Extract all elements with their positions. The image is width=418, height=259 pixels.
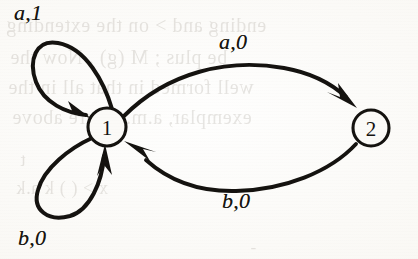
state-machine-diagram: 1 2: [0, 0, 418, 259]
transition-two-to-one: [124, 141, 356, 191]
state-node-1[interactable]: 1: [88, 108, 126, 146]
self-loop-upper-curve: [33, 43, 112, 115]
label-self-loop-lower: b,0: [18, 225, 46, 251]
transition-self-loop-lower: [37, 138, 112, 218]
transition-self-loop-upper: [33, 43, 112, 119]
label-edge-one-to-two: a,0: [219, 29, 247, 55]
edge-two-to-one-curve: [146, 144, 356, 191]
state-1-label: 1: [102, 116, 113, 140]
label-edge-two-to-one: b,0: [222, 188, 250, 214]
scanned-page: ending and > on the extendingbe plus ; M…: [0, 0, 418, 259]
self-loop-lower-curve: [37, 138, 104, 218]
state-2-label: 2: [366, 117, 377, 141]
self-loop-lower-arrowhead: [97, 144, 112, 176]
label-self-loop-upper: a,1: [14, 0, 42, 26]
transition-one-to-two: [124, 65, 357, 116]
state-node-2[interactable]: 2: [353, 110, 389, 146]
edge-two-to-one-arrowhead: [124, 141, 156, 161]
edge-one-to-two-curve: [124, 65, 346, 116]
